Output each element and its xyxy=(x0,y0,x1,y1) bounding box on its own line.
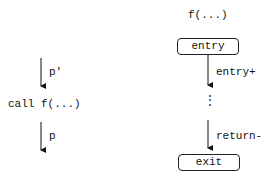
ellipsis-vertical: ⋮ xyxy=(204,94,216,108)
edge-label-entry-plus: entry+ xyxy=(216,66,256,78)
call-statement: call f(...) xyxy=(8,98,81,110)
diagram-edges xyxy=(0,0,271,178)
edge-label-p-prime: p' xyxy=(49,66,62,78)
function-title: f(...) xyxy=(188,9,228,21)
edge-label-return-minus: return- xyxy=(216,130,262,142)
edge-label-p: p xyxy=(49,130,56,142)
exit-node: exit xyxy=(178,154,240,171)
entry-node: entry xyxy=(177,38,239,55)
